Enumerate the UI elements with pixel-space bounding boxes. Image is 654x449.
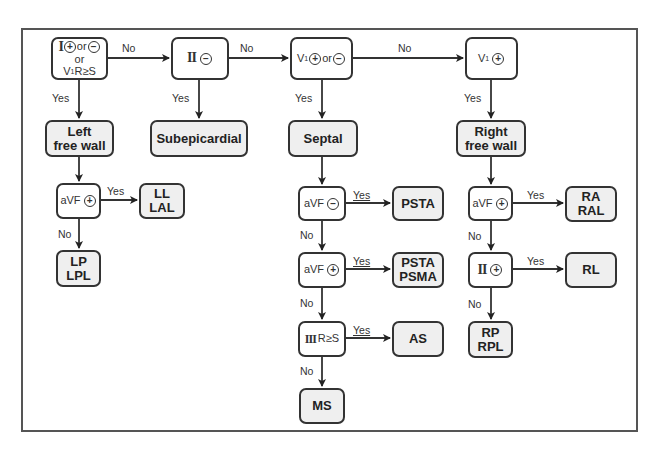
edge-label-no: No [240,42,253,54]
negative-icon: − [200,53,212,65]
result-as: AS [392,321,444,357]
lead-label: II [478,263,487,278]
decision-lead-ii-positive: II + [468,252,513,288]
edge-label-no: No [468,230,481,242]
decision-lead-i-or-v1: I + or − or V1R≥S [51,37,108,80]
lead-label: aVF [304,198,324,210]
result-line: Septal [303,132,342,146]
edge-label-no: No [468,298,481,310]
criterion-text: R≥S [74,66,95,78]
lead-label: V [478,53,485,65]
result-line: Right [474,125,507,139]
edge-label-yes: Yes [52,92,69,104]
decision-lead-iii-r-ge-s: III R≥S [298,321,346,357]
lead-subscript: 1 [304,55,308,62]
edge-label-no: No [300,229,313,241]
result-rp-rpl: RP RPL [468,321,513,358]
lead-label: aVF [304,264,324,276]
result-line: Subepicardial [156,132,241,146]
edge-label-yes: Yes [353,189,370,201]
criterion-text: R≥S [318,333,339,345]
lead-label: V [63,66,70,78]
result-line: RP [481,326,499,340]
edge-label-yes: Yes [353,255,370,267]
edge-label-yes: Yes [295,92,312,104]
positive-icon: + [492,53,504,65]
result-psta: PSTA [392,186,444,221]
edge-label-no: No [398,42,411,54]
decision-v1-pos-or-neg: V1 + or − [290,37,353,80]
result-septal: Septal [288,120,358,157]
edge-label-yes: Yes [172,92,189,104]
edge-label-no: No [300,365,313,377]
positive-icon: + [496,198,508,210]
or-text: or [77,41,87,53]
positive-icon: + [490,264,502,276]
result-line: free wall [53,139,105,153]
lead-label: aVF [472,198,492,210]
decision-v1-positive: V1 + [465,37,518,80]
negative-icon: − [327,198,339,210]
decision-left-avf-positive: aVF + [56,183,101,219]
positive-icon: + [327,264,339,276]
decision-lead-ii-negative: II − [171,37,229,80]
result-line: MS [312,399,332,413]
negative-icon: − [333,53,345,65]
result-line: LPL [66,269,91,283]
result-line: PSMA [399,270,437,284]
positive-icon: + [64,41,76,53]
decision-septal-avf-negative: aVF − [298,186,346,221]
result-line: RA [582,190,601,204]
lead-label: I [58,40,62,55]
result-line: LP [70,255,87,269]
decision-septal-avf-positive: aVF + [298,252,346,288]
result-lp-lpl: LP LPL [56,250,101,287]
edge-label-yes: Yes [353,324,370,336]
lead-label: aVF [60,195,80,207]
lead-label: II [187,51,196,66]
lead-subscript: 1 [485,55,489,62]
positive-icon: + [309,53,321,65]
edge-label-no: No [122,42,135,54]
result-psta-psma: PSTA PSMA [392,252,444,288]
result-line: RL [582,263,599,277]
edge-label-yes: Yes [527,189,544,201]
or-text: or [322,53,332,65]
result-line: AS [409,332,427,346]
result-line: LAL [149,201,174,215]
result-subepicardial: Subepicardial [150,120,248,157]
result-line: free wall [465,139,517,153]
result-line: RAL [578,204,605,218]
edge-label-yes: Yes [464,92,481,104]
edge-label-no: No [58,228,71,240]
negative-icon: − [88,41,100,53]
decision-right-avf-positive: aVF + [468,186,513,221]
result-ms: MS [299,388,345,424]
positive-icon: + [84,195,96,207]
lead-label: V [297,53,304,65]
result-line: PSTA [401,256,435,270]
result-ll-lal: LL LAL [139,183,185,219]
edge-label-yes: Yes [527,255,544,267]
edge-label-no: No [300,297,313,309]
result-right-free-wall: Right free wall [456,120,526,157]
edge-label-yes: Yes [107,185,124,197]
result-ra-ral: RA RAL [565,186,617,222]
result-left-free-wall: Left free wall [45,120,114,157]
result-line: LL [154,187,170,201]
result-line: Left [68,125,92,139]
result-rl: RL [565,252,617,288]
result-line: RPL [478,340,504,354]
result-line: PSTA [401,197,435,211]
lead-label: III [305,333,316,346]
